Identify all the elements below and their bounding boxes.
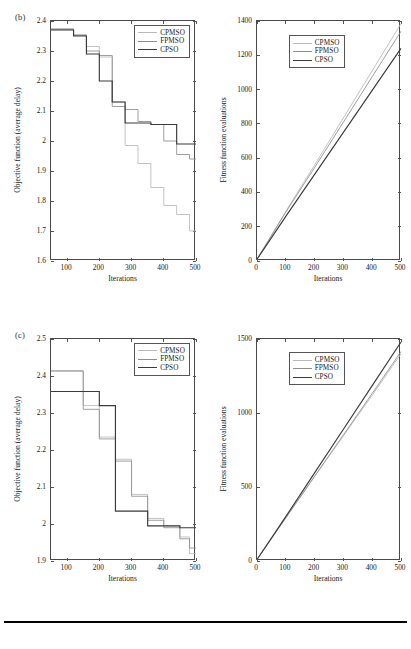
x-axis-tick-label: 300 <box>125 563 136 572</box>
y-axis-tick-label: 1000 <box>230 408 252 417</box>
y-axis-tick-label: 2.4 <box>24 371 46 380</box>
objective-function-chart-b: CPMSOFPMSOCPSO1.61.71.81.922.12.22.32.41… <box>0 0 206 300</box>
y-axis-tick-label: 2 <box>24 519 46 528</box>
x-axis-tick-label: 200 <box>308 263 319 272</box>
legend-item-fpmso[interactable]: FPMSO <box>138 355 185 364</box>
legend-item-cpmso[interactable]: CPMSO <box>293 356 340 365</box>
chart-legend[interactable]: CPMSOFPMSOCPSO <box>289 352 345 385</box>
x-axis-tick-label: 100 <box>279 263 290 272</box>
legend-line-swatch <box>138 359 157 360</box>
x-axis-tick-label: 400 <box>157 563 168 572</box>
legend-item-label: CPSO <box>160 364 178 373</box>
legend-item-fpmso[interactable]: FPMSO <box>138 37 185 46</box>
y-axis-tick-label: 2.1 <box>24 482 46 491</box>
chart-legend[interactable]: CPMSOFPMSOCPSO <box>289 35 345 68</box>
y-axis-label: Fitness function evaluations <box>219 406 228 491</box>
y-axis-tick-label: 2.3 <box>24 408 46 417</box>
x-axis-tick-label: 0 <box>254 563 258 572</box>
y-axis-tick-label: 1.9 <box>24 556 46 565</box>
bottom-horizontal-rule <box>4 621 407 623</box>
legend-item-label: FPMSO <box>160 37 184 46</box>
x-axis-tick-label: 500 <box>189 263 200 272</box>
y-axis-tick-label: 1200 <box>230 50 252 59</box>
legend-item-label: CPSO <box>160 46 178 55</box>
legend-item-cpso[interactable]: CPSO <box>293 56 340 65</box>
legend-item-cpso[interactable]: CPSO <box>293 373 340 382</box>
y-axis-tick-label: 2.4 <box>24 16 46 25</box>
x-axis-tick-label: 500 <box>189 563 200 572</box>
y-axis-tick-label: 2.2 <box>24 445 46 454</box>
y-axis-tick-label: 1.8 <box>24 196 46 205</box>
legend-item-cpso[interactable]: CPSO <box>138 364 185 373</box>
y-axis-tick-label: 1400 <box>230 16 252 25</box>
chart-legend[interactable]: CPMSOFPMSOCPSO <box>134 25 190 58</box>
plot-area: CPMSOFPMSOCPSO <box>50 338 195 560</box>
y-axis-label: Objective function (average delay) <box>13 87 22 193</box>
legend-item-cpmso[interactable]: CPMSO <box>293 39 340 48</box>
y-axis-tick-label: 500 <box>230 482 252 491</box>
legend-item-label: CPSO <box>315 56 333 65</box>
legend-item-label: CPMSO <box>160 347 185 356</box>
legend-item-fpmso[interactable]: FPMSO <box>293 364 340 373</box>
legend-line-swatch <box>138 32 157 33</box>
y-axis-tick-label: 1000 <box>230 84 252 93</box>
x-axis-tick-label: 200 <box>308 563 319 572</box>
legend-item-label: FPMSO <box>315 364 339 373</box>
plot-area: CPMSOFPMSOCPSO <box>256 20 400 260</box>
legend-line-swatch <box>138 350 157 351</box>
legend-line-swatch <box>138 41 157 42</box>
legend-item-label: CPMSO <box>315 356 340 365</box>
legend-item-label: CPMSO <box>160 29 185 38</box>
series-line-cpso <box>257 48 401 259</box>
x-axis-label: Iterations <box>108 574 137 583</box>
legend-line-swatch <box>293 377 312 378</box>
legend-item-label: CPMSO <box>315 39 340 48</box>
x-axis-label: Iterations <box>314 274 343 283</box>
y-axis-tick-label: 1.9 <box>24 166 46 175</box>
y-axis-tick-label: 1.7 <box>24 226 46 235</box>
objective-function-chart-c: CPMSOFPMSOCPSO1.922.12.22.32.42.51002003… <box>0 318 206 600</box>
panel-b: (b) CPMSOFPMSOCPSO1.61.71.81.922.12.22.3… <box>0 0 411 300</box>
legend-line-swatch <box>138 49 157 50</box>
legend-item-label: CPSO <box>315 373 333 382</box>
y-axis-tick-label: 400 <box>230 187 252 196</box>
legend-item-fpmso[interactable]: FPMSO <box>293 47 340 56</box>
legend-line-swatch <box>293 368 312 369</box>
chart-legend[interactable]: CPMSOFPMSOCPSO <box>134 343 190 376</box>
y-axis-tick-label: 600 <box>230 153 252 162</box>
legend-line-swatch <box>138 367 157 368</box>
y-axis-tick-label: 2 <box>24 136 46 145</box>
x-axis-tick-label: 200 <box>93 563 104 572</box>
x-axis-tick-label: 0 <box>254 263 258 272</box>
x-axis-tick-label: 400 <box>157 263 168 272</box>
x-axis-tick-label: 300 <box>125 263 136 272</box>
x-axis-tick-label: 100 <box>61 263 72 272</box>
y-axis-tick-label: 800 <box>230 118 252 127</box>
legend-item-cpmso[interactable]: CPMSO <box>138 29 185 38</box>
y-axis-tick-label: 2.5 <box>24 334 46 343</box>
x-axis-tick-label: 400 <box>366 563 377 572</box>
y-axis-tick-label: 1.6 <box>24 256 46 265</box>
legend-item-cpso[interactable]: CPSO <box>138 46 185 55</box>
x-axis-tick-label: 500 <box>394 263 405 272</box>
y-axis-tick-label: 2.3 <box>24 46 46 55</box>
y-axis-label: Fitness function evaluations <box>219 97 228 182</box>
fitness-evaluations-chart-c: CPMSOFPMSOCPSO05001000150001002003004005… <box>206 318 411 600</box>
x-axis-tick-label: 300 <box>337 263 348 272</box>
y-axis-tick-label: 0 <box>230 256 252 265</box>
x-axis-tick-label: 100 <box>61 563 72 572</box>
y-axis-tick-label: 200 <box>230 221 252 230</box>
x-axis-tick-label: 500 <box>394 563 405 572</box>
y-axis-tick-label: 1500 <box>230 334 252 343</box>
plot-area: CPMSOFPMSOCPSO <box>256 338 400 560</box>
series-line-cpmso <box>51 29 196 232</box>
legend-item-label: FPMSO <box>160 355 184 364</box>
legend-item-label: FPMSO <box>315 47 339 56</box>
x-axis-tick-label: 300 <box>337 563 348 572</box>
x-axis-tick-label: 100 <box>279 563 290 572</box>
y-axis-tick-label: 0 <box>230 556 252 565</box>
legend-line-swatch <box>293 51 312 52</box>
legend-item-cpmso[interactable]: CPMSO <box>138 347 185 356</box>
y-axis-tick-label: 2.2 <box>24 76 46 85</box>
y-axis-label: Objective function (average delay) <box>13 396 22 502</box>
